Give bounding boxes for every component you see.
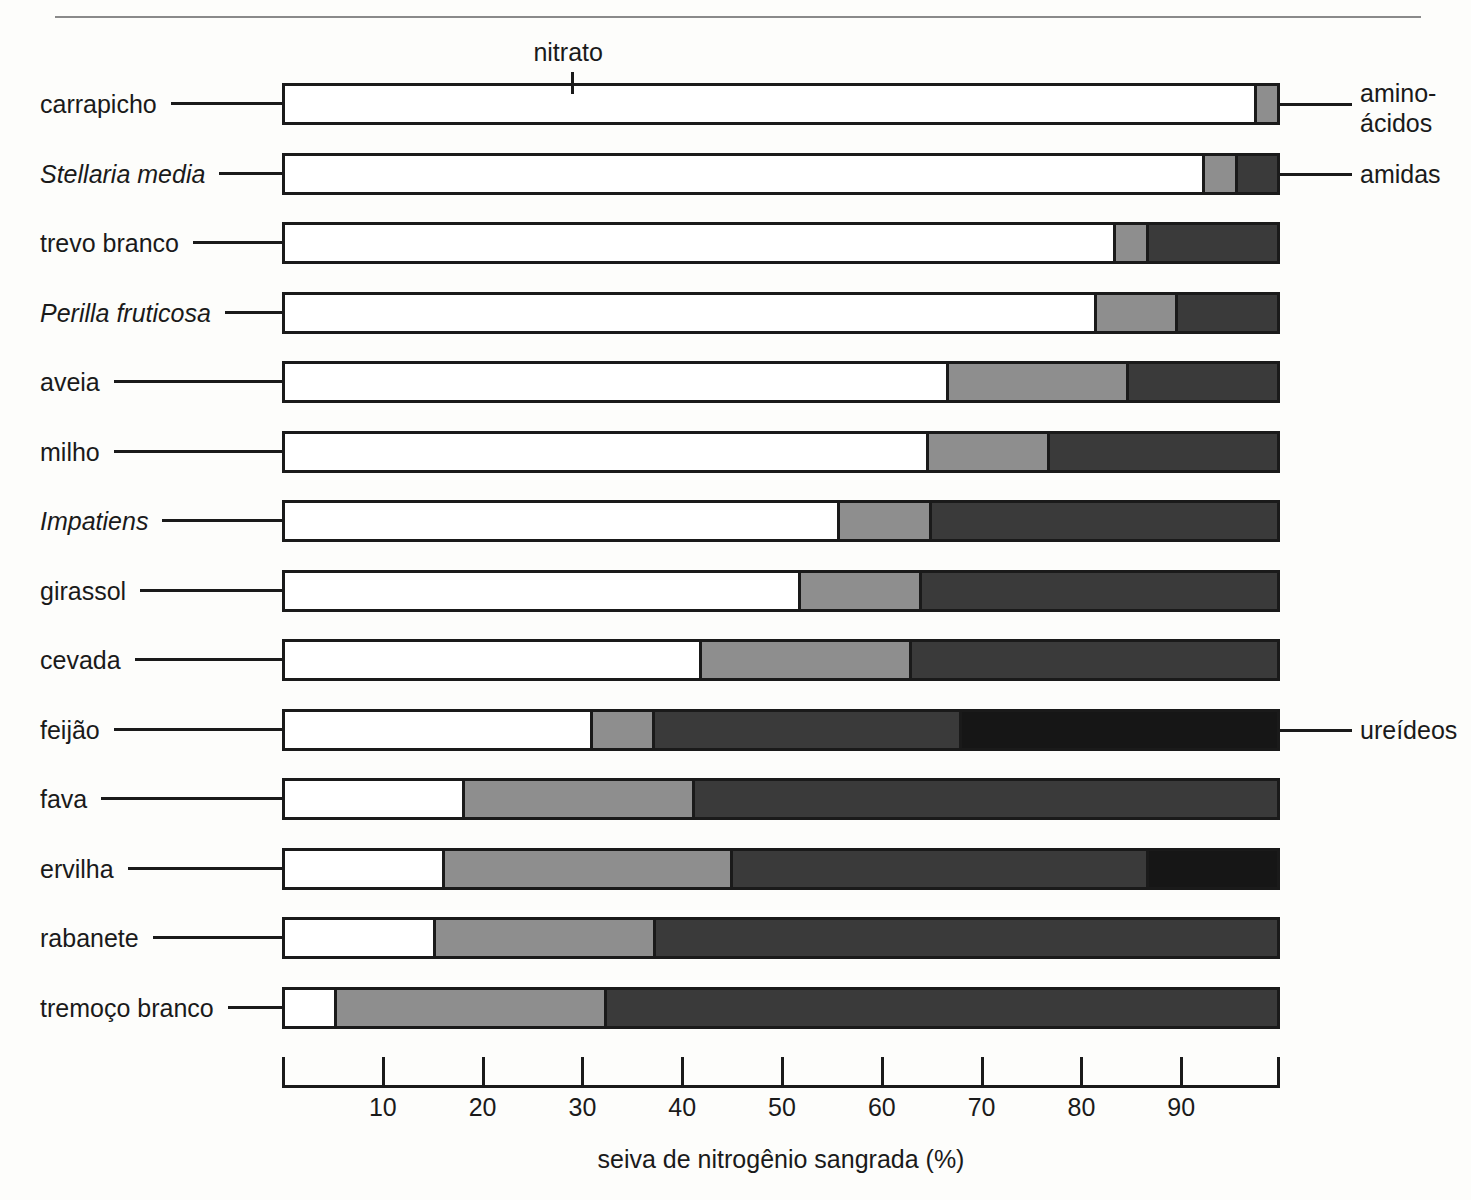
x-axis: 102030405060708090seiva de nitrogênio sa…	[0, 0, 1471, 1200]
axis-tick-70	[981, 1057, 984, 1085]
axis-tick-60	[881, 1057, 884, 1085]
axis-tick-label-90: 90	[1167, 1093, 1195, 1122]
axis-tick-10	[382, 1057, 385, 1085]
axis-tick-label-80: 80	[1067, 1093, 1095, 1122]
axis-tick-label-30: 30	[568, 1093, 596, 1122]
axis-tick-80	[1080, 1057, 1083, 1085]
axis-tick-50	[781, 1057, 784, 1085]
axis-tick-30	[581, 1057, 584, 1085]
axis-tick-label-70: 70	[968, 1093, 996, 1122]
axis-baseline	[282, 1085, 1280, 1088]
axis-tick-40	[681, 1057, 684, 1085]
axis-tick-90	[1180, 1057, 1183, 1085]
axis-tick-label-40: 40	[668, 1093, 696, 1122]
axis-end-tick	[1277, 1057, 1280, 1085]
axis-tick-label-60: 60	[868, 1093, 896, 1122]
axis-title: seiva de nitrogênio sangrada (%)	[598, 1145, 965, 1174]
axis-tick-20	[482, 1057, 485, 1085]
axis-end-tick	[282, 1057, 285, 1085]
axis-tick-label-20: 20	[469, 1093, 497, 1122]
axis-tick-label-50: 50	[768, 1093, 796, 1122]
axis-tick-label-10: 10	[369, 1093, 397, 1122]
